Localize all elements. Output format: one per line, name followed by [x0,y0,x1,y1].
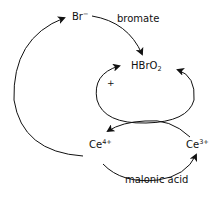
bromide-base: Br [72,11,83,22]
ce4-base: Ce [89,139,102,150]
label-malonic-acid: malonic acid [125,174,188,186]
ce3-charge: 3+ [199,138,209,146]
ce3-base: Ce [186,139,199,150]
hbro2-subscript: 2 [157,65,161,73]
node-bromide: Br− [72,11,88,23]
label-bromate: bromate [117,13,159,25]
hbro2-base: HBrO [131,60,157,71]
arrow-ce4-to-bromide [14,18,83,156]
ce4-charge: 4+ [102,138,112,146]
arrow-autocatalytic-right [178,70,194,100]
node-ce3: Ce3+ [186,139,209,151]
bromide-charge: − [83,10,88,18]
label-autocatalysis-plus: + [107,77,115,89]
node-hbro2: HBrO2 [131,60,162,72]
upper-loop-bottom [97,100,194,123]
node-ce4: Ce4+ [89,139,112,151]
